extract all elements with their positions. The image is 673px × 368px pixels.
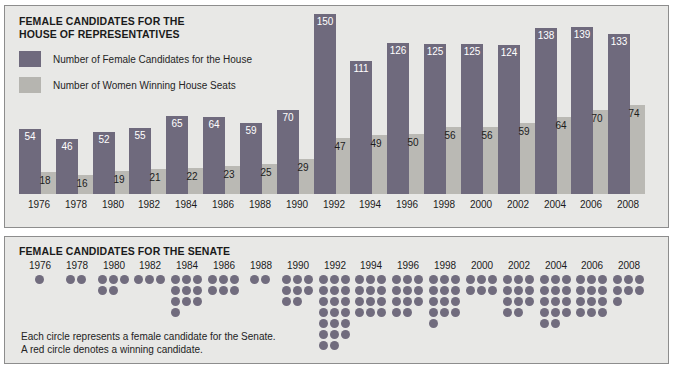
bar-candidates-1994 [350,61,372,194]
senate-candidate-dot [66,275,75,284]
bar-candidates-2006 [571,27,593,194]
senate-candidate-dot [77,275,86,284]
senate-candidate-dot [429,297,438,306]
senate-candidate-dot [525,297,534,306]
senate-candidate-dot [341,275,350,284]
senate-candidate-dot [576,308,585,317]
senate-candidate-dot [366,275,375,284]
bar-year-label-1976: 1976 [19,199,59,210]
senate-candidate-dot [403,297,412,306]
senate-candidate-dot [330,286,339,295]
senate-year-label-2008: 2008 [608,260,650,271]
bar-value-winners-2004: 64 [550,120,572,131]
senate-candidate-dot [156,275,165,284]
senate-dot-grid-1996 [392,275,425,319]
senate-candidate-dot [613,275,622,284]
senate-dot-grid-1992 [319,275,352,352]
bar-value-winners-1990: 29 [292,162,314,173]
senate-dot-grid-1990 [282,275,315,308]
bar-candidates-1998 [424,44,446,194]
bar-value-winners-1988: 25 [255,167,277,178]
bar-year-label-1978: 1978 [56,199,96,210]
senate-candidate-dot [576,297,585,306]
senate-candidate-dot [392,308,401,317]
senate-candidate-dot [551,308,560,317]
bar-group-1986: 6423 [203,14,243,194]
senate-candidate-dot [440,297,449,306]
top-white-strip [0,0,673,4]
senate-candidate-dot [330,330,339,339]
bar-group-1978: 4616 [56,14,96,194]
senate-year-label-1976: 1976 [19,260,61,271]
bar-group-2000: 12556 [461,14,501,194]
senate-candidate-dot [514,308,523,317]
senate-candidate-dot [551,319,560,328]
bar-year-label-2000: 2000 [461,199,501,210]
senate-candidate-dot [182,286,191,295]
bar-year-label-2002: 2002 [498,199,538,210]
bar-candidates-1996 [387,43,409,194]
bar-candidates-2000 [461,44,483,194]
senate-candidate-dot [514,286,523,295]
senate-candidate-dot [319,286,328,295]
senate-candidate-dot [503,286,512,295]
senate-candidate-dot [587,286,596,295]
senate-candidate-dot [514,275,523,284]
bar-year-label-1992: 1992 [314,199,354,210]
senate-candidate-dot [366,286,375,295]
bar-group-1992: 15047 [314,14,354,194]
senate-candidate-dot [488,275,497,284]
bar-group-1980: 5219 [93,14,133,194]
senate-dot-grid-2000 [466,275,499,297]
senate-candidate-dot [109,275,118,284]
senate-candidate-dot [193,297,202,306]
senate-candidate-dot [414,286,423,295]
senate-candidate-dot [366,297,375,306]
bar-value-winners-2008: 74 [623,108,645,119]
senate-candidate-dot [440,286,449,295]
bar-group-1976: 5418 [19,14,59,194]
senate-candidate-dot [440,275,449,284]
senate-dot-grid-2004 [540,275,573,330]
senate-candidate-dot [319,341,328,350]
senate-candidate-dot [598,308,607,317]
senate-year-label-2002: 2002 [498,260,540,271]
bar-group-1998: 12556 [424,14,464,194]
senate-candidate-dot [319,308,328,317]
senate-year-label-1978: 1978 [56,260,98,271]
senate-candidate-dot [392,297,401,306]
house-bar-chart: 5418197646161978521919805521198265221984… [5,6,670,229]
house-panel: FEMALE CANDIDATES FOR THE HOUSE OF REPRE… [4,5,669,228]
senate-panel: FEMALE CANDIDATES FOR THE SENATE 1976197… [4,236,669,364]
senate-candidate-dot [182,275,191,284]
bar-candidates-2002 [498,45,520,194]
bar-candidates-1992 [314,14,336,194]
senate-candidate-dot [219,286,228,295]
senate-candidate-dot [171,308,180,317]
senate-candidate-dot [587,297,596,306]
senate-candidate-dot [304,275,313,284]
senate-candidate-dot [503,275,512,284]
senate-candidate-dot [414,297,423,306]
senate-candidate-dot [219,275,228,284]
senate-candidate-dot [377,308,386,317]
senate-candidate-dot [355,275,364,284]
bar-candidates-2004 [535,28,557,194]
senate-candidate-dot [466,275,475,284]
senate-candidate-dot [414,275,423,284]
bar-value-candidates-1982: 55 [129,130,151,141]
bar-value-winners-1984: 22 [181,171,203,182]
bar-year-label-1990: 1990 [277,199,317,210]
senate-candidate-dot [171,286,180,295]
senate-dot-grid-1994 [355,275,388,319]
senate-candidate-dot [319,330,328,339]
senate-candidate-dot [451,308,460,317]
senate-candidate-dot [319,275,328,284]
senate-candidate-dot [208,275,217,284]
bar-value-candidates-1992: 150 [314,16,336,27]
bar-group-2002: 12459 [498,14,538,194]
senate-candidate-dot [293,297,302,306]
senate-year-label-1984: 1984 [166,260,208,271]
senate-candidate-dot [587,275,596,284]
senate-candidate-dot [109,286,118,295]
